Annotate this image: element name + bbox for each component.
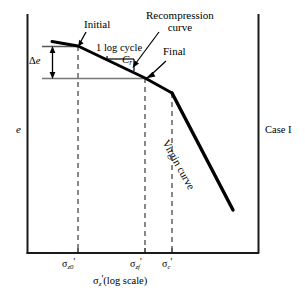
y-axis-label: e [16, 124, 21, 136]
recompression-index-label: Cr [122, 54, 132, 67]
virgin-curve-path [172, 93, 233, 210]
x-tick-label-sigma-zf: σzf' [130, 258, 142, 270]
x-axis-label: σz'(log scale) [93, 274, 147, 288]
figure-canvas [0, 0, 305, 296]
y-axis-label-text: e [16, 123, 21, 135]
recompression-curve-label-line2: curve [146, 22, 214, 34]
x-tick-label-sigma-z0: σz0' [62, 258, 75, 270]
case-label: Case I [265, 124, 292, 135]
initial-point-label: Initial [84, 19, 110, 31]
final-point-label: Final [163, 46, 186, 58]
final-leader-line [152, 61, 166, 74]
consolidation-curve-figure: Initial Recompression curve Final 1 log … [0, 0, 305, 296]
x-tick-label-sigma-c: σc' [162, 258, 172, 270]
recompression-curve-label: Recompression curve [146, 10, 214, 33]
one-log-cycle-label: 1 log cycle [96, 42, 142, 53]
delta-e-label: Δe [29, 55, 40, 66]
recompression-curve-label-line1: Recompression [146, 10, 214, 22]
